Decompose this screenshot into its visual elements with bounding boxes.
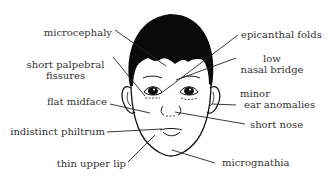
label-text: microcephaly xyxy=(44,27,112,38)
hair-icon xyxy=(128,14,213,86)
label-short-nose: short nose xyxy=(250,119,303,130)
label-text-line2: nasal bridge xyxy=(237,64,307,75)
mouth-icon xyxy=(160,129,182,136)
label-text: micrognathia xyxy=(222,157,290,168)
label-text-line2: ear anomalies xyxy=(238,99,315,110)
label-low-nasal-bridge: low nasal bridge xyxy=(237,53,307,75)
label-indistinct-philtrum: indistinct philtrum xyxy=(5,126,105,137)
label-epicanthal-folds: epicanthal folds xyxy=(241,29,322,40)
label-text: flat midface xyxy=(47,96,107,107)
label-text: short nose xyxy=(250,119,303,130)
label-text: thin upper lip xyxy=(57,158,126,169)
label-text: indistinct philtrum xyxy=(10,126,105,137)
label-text-line1: low xyxy=(237,53,307,64)
label-flat-midface: flat midface xyxy=(20,96,107,107)
label-text-line1: short palpebral xyxy=(18,59,113,70)
label-text: epicanthal folds xyxy=(241,29,322,40)
nose-icon xyxy=(161,106,181,116)
right-eye-icon xyxy=(180,87,198,100)
face-outline xyxy=(131,70,211,156)
label-text-line2: fissures xyxy=(18,70,113,81)
left-eye-icon xyxy=(144,87,162,98)
face-diagram: microcephaly short palpebral fissures fl… xyxy=(0,0,330,178)
label-minor-ear-anomalies: minor ear anomalies xyxy=(238,88,315,110)
label-thin-upper-lip: thin upper lip xyxy=(50,158,126,169)
label-text-line1: minor xyxy=(238,88,315,99)
label-microcephaly: microcephaly xyxy=(30,27,112,38)
label-short-palpebral-fissures: short palpebral fissures xyxy=(18,59,113,81)
label-micrognathia: micrognathia xyxy=(222,157,290,168)
